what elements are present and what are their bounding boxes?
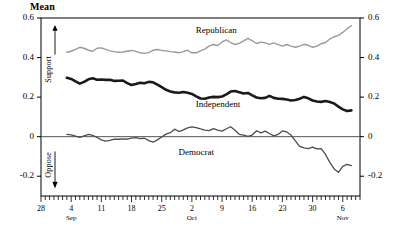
y-tick-label-left: 0 (30, 131, 35, 141)
x-tick-label: 25 (147, 204, 177, 213)
chart-container: Mean 0.60.60.40.40.20.200-0.2-0.2284Sep1… (0, 0, 407, 236)
y-tick-label-right: 0.2 (368, 91, 379, 101)
x-tick-label: 23 (267, 204, 297, 213)
oppose-arrow-head (52, 182, 57, 189)
x-tick-label: 16 (237, 204, 267, 213)
x-tick-sublabel: Sep (56, 214, 86, 222)
x-tick-sublabel: Oct (177, 214, 207, 222)
series-label-independent: Independent (196, 99, 240, 109)
series-label-republican: Republican (196, 25, 237, 35)
y-tick-label-left: 0.6 (23, 12, 34, 22)
plot-area (0, 0, 407, 236)
y-tick-label-left: 0.2 (23, 91, 34, 101)
y-tick-label-left: 0.4 (23, 52, 34, 62)
y-tick-label-right: -0.2 (368, 170, 382, 180)
x-tick-label: 2 (177, 204, 207, 213)
support-arrow-head (52, 25, 57, 31)
y-tick-label-left: -0.2 (20, 170, 34, 180)
y-tick-label-right: 0.6 (368, 12, 379, 22)
y-tick-label-right: 0 (368, 131, 373, 141)
x-tick-label: 28 (26, 204, 56, 213)
x-tick-label: 30 (298, 204, 328, 213)
oppose-direction-label: Oppose (44, 152, 53, 178)
x-tick-sublabel: Nov (328, 214, 358, 222)
x-tick-label: 9 (207, 204, 237, 213)
x-tick-label: 4 (56, 204, 86, 213)
series-label-democrat: Democrat (179, 147, 214, 157)
y-tick-label-right: 0.4 (368, 52, 379, 62)
x-tick-label: 6 (328, 204, 358, 213)
x-tick-label: 18 (117, 204, 147, 213)
support-direction-label: Support (44, 56, 53, 83)
x-tick-label: 11 (86, 204, 116, 213)
